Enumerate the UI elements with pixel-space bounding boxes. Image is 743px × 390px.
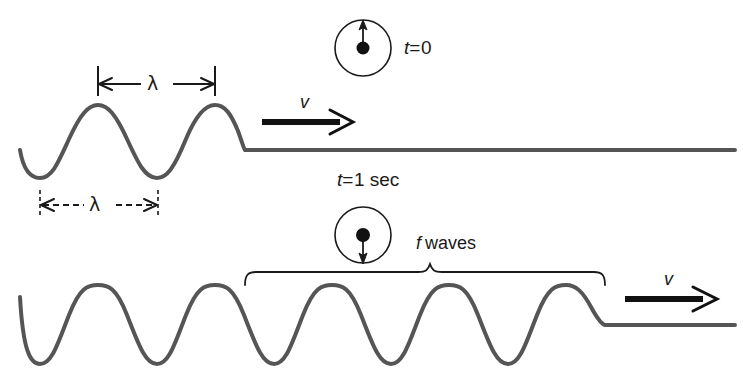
top-waveform <box>20 105 735 178</box>
f-waves-word: waves <box>425 233 476 253</box>
wave-diagram-figure: λ λ t=0 t=1 sec v v fwaves <box>0 0 743 390</box>
f-waves-brace-path <box>245 264 605 285</box>
top-velocity-arrow <box>262 110 353 134</box>
time-one-equals: = <box>342 169 354 190</box>
top-oscillator <box>335 20 391 76</box>
bottom-velocity-label: v <box>664 270 673 288</box>
bottom-oscillator-dot <box>356 228 370 242</box>
bottom-oscillator <box>335 207 391 264</box>
top-wave-group <box>20 105 735 178</box>
time-one-value: 1 sec <box>354 169 399 190</box>
diagram-canvas <box>0 0 743 390</box>
time-zero-value: 0 <box>421 37 432 58</box>
f-waves-brace <box>245 264 605 285</box>
top-wavelength-label: λ <box>147 74 158 93</box>
bottom-velocity-arrow <box>625 287 717 311</box>
f-waves-variable: f <box>416 233 421 253</box>
f-waves-label: fwaves <box>416 234 476 252</box>
top-oscillator-dot <box>357 42 370 55</box>
time-zero-equals: = <box>409 37 421 58</box>
bottom-wavelength-label: λ <box>89 195 100 214</box>
top-velocity-label: v <box>300 93 309 111</box>
time-one-second-label: t=1 sec <box>337 170 399 189</box>
time-zero-label: t=0 <box>404 38 431 57</box>
